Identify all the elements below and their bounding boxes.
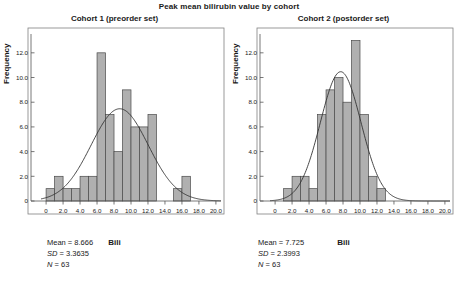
x-tick-label: 10.0	[125, 207, 138, 214]
stats-n-cohort-1: N = 63	[47, 259, 93, 270]
histogram-bar	[123, 90, 131, 201]
histogram-bar	[106, 115, 114, 201]
panel-title-cohort-1: Cohort 1 (preorder set)	[0, 14, 229, 23]
y-tick-label: 6.0	[19, 123, 28, 130]
plot-area-cohort-2: Frequency 02.04.06.08.010.012.014.016.01…	[229, 26, 458, 231]
histogram-bar	[182, 176, 190, 201]
x-tick-label: 4.0	[76, 207, 85, 214]
figure-root: Peak mean bilirubin value by cohort Coho…	[0, 0, 458, 287]
x-tick-label: 12.0	[142, 207, 155, 214]
histogram-bar	[309, 189, 317, 201]
y-tick-label: 10.0	[245, 74, 258, 81]
histogram-bar	[343, 102, 351, 201]
y-tick-label: 0	[25, 197, 29, 204]
histogram-bar	[335, 78, 343, 201]
x-tick-label: 4.0	[305, 207, 314, 214]
histogram-bar	[80, 176, 88, 201]
x-tick-label: 2.0	[288, 207, 297, 214]
x-tick-label: 12.0	[371, 207, 384, 214]
panel-title-cohort-2: Cohort 2 (postorder set)	[229, 14, 458, 23]
histogram-bar	[114, 152, 122, 201]
y-tick-label: 4.0	[19, 148, 28, 155]
x-tick-label: 8.0	[339, 207, 348, 214]
x-tick-label: 0	[44, 207, 48, 214]
stats-cohort-1: Mean = 8.666 SD = 3.3635 N = 63	[47, 237, 93, 270]
y-tick-label: 6.0	[248, 123, 257, 130]
y-tick-label: 2.0	[248, 173, 257, 180]
stats-cohort-2: Mean = 7.725 SD = 2.3993 N = 63	[258, 237, 304, 270]
x-tick-label: 8.0	[110, 207, 119, 214]
y-tick-label: 8.0	[19, 98, 28, 105]
bar-group	[46, 53, 190, 201]
stats-sd-cohort-1: SD = 3.3635	[47, 248, 93, 259]
y-tick-label: 2.0	[19, 173, 28, 180]
histogram-bar	[360, 115, 368, 201]
x-tick-label: 16.0	[405, 207, 418, 214]
stats-n-value-cohort-2: = 63	[263, 260, 280, 269]
stats-sd-value-cohort-2: = 2.3993	[268, 249, 300, 258]
histogram-cohort-2: 02.04.06.08.010.012.014.016.018.020.002.…	[229, 26, 458, 231]
x-tick-label: 20.0	[439, 207, 452, 214]
x-tick-label: 10.0	[354, 207, 367, 214]
stats-mean-cohort-2: Mean = 7.725	[258, 237, 304, 248]
stats-n-value-cohort-1: = 63	[52, 260, 69, 269]
histogram-bar	[63, 189, 71, 201]
bar-group	[284, 40, 386, 201]
figure-title: Peak mean bilirubin value by cohort	[0, 2, 458, 11]
x-tick-label: 14.0	[159, 207, 172, 214]
stats-sd-value-cohort-1: = 3.3635	[57, 249, 89, 258]
x-tick-label: 18.0	[193, 207, 206, 214]
stats-sd-symbol-cohort-2: SD	[258, 249, 268, 258]
y-tick-label: 0	[254, 197, 258, 204]
histogram-bar	[89, 176, 97, 201]
x-axis-label-cohort-1: Bili	[0, 238, 229, 247]
x-tick-label: 20.0	[210, 207, 223, 214]
plot-area-cohort-1: Frequency 02.04.06.08.010.012.014.016.01…	[0, 26, 229, 231]
x-tick-label: 2.0	[59, 207, 68, 214]
stats-mean-cohort-1: Mean = 8.666	[47, 237, 93, 248]
histogram-bar	[368, 176, 376, 201]
x-tick-label: 14.0	[388, 207, 401, 214]
y-tick-label: 10.0	[16, 74, 29, 81]
y-tick-label: 12.0	[16, 49, 29, 56]
stats-sd-symbol-cohort-1: SD	[47, 249, 57, 258]
histogram-bar	[352, 40, 360, 201]
histogram-bar	[131, 127, 139, 201]
histogram-bar	[326, 90, 334, 201]
x-tick-label: 16.0	[176, 207, 189, 214]
histogram-cohort-1: 02.04.06.08.010.012.014.016.018.020.002.…	[0, 26, 229, 231]
stats-n-cohort-2: N = 63	[258, 259, 304, 270]
y-tick-label: 8.0	[248, 98, 257, 105]
x-tick-label: 6.0	[322, 207, 331, 214]
histogram-bar	[139, 127, 147, 201]
stats-sd-cohort-2: SD = 2.3993	[258, 248, 304, 259]
x-tick-label: 0	[273, 207, 277, 214]
histogram-bar	[377, 189, 385, 201]
x-tick-label: 6.0	[93, 207, 102, 214]
x-tick-label: 18.0	[422, 207, 435, 214]
panel-cohort-1: Cohort 1 (preorder set) Frequency 02.04.…	[0, 14, 229, 287]
histogram-bar	[72, 189, 80, 201]
y-tick-label: 12.0	[245, 49, 258, 56]
histogram-bar	[173, 189, 181, 201]
y-tick-label: 4.0	[248, 148, 257, 155]
